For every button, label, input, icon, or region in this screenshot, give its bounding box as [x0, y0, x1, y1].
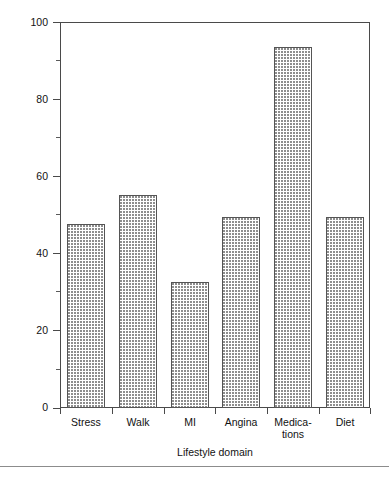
bar-mi[interactable]: [171, 282, 209, 408]
x-tick-label-diet-line1: Diet: [336, 416, 355, 428]
x-tick-label-medications: Medica- tions: [265, 416, 321, 440]
x-tick-label-angina-line1: Angina: [225, 416, 258, 428]
x-tick-label-medications-line1: Medica-: [274, 416, 311, 428]
y-tick-mark-20: [53, 330, 60, 331]
y-tick-label-40: 40: [8, 248, 48, 259]
y-tick-label-0: 0: [8, 402, 48, 413]
x-tick-label-mi-line1: MI: [184, 416, 196, 428]
bar-diet[interactable]: [326, 217, 364, 408]
bar-angina[interactable]: [222, 217, 260, 408]
y-tick-mark-0: [53, 408, 60, 409]
y-tick-mark-40: [53, 253, 60, 254]
page-divider: [0, 466, 389, 467]
y-tick-mark-100: [53, 22, 60, 23]
x-tick-label-mi: MI: [164, 416, 216, 428]
y-tick-label-60: 60: [8, 171, 48, 182]
x-tick-mark-0: [60, 408, 61, 414]
x-tick-mark-3: [215, 408, 216, 414]
x-tick-mark-2: [164, 408, 165, 414]
x-tick-label-stress: Stress: [60, 416, 112, 428]
x-tick-mark-1: [112, 408, 113, 414]
bar-chart-figure: Level of confidence (percent) 100 80 60 …: [0, 0, 389, 478]
x-tick-label-medications-line2: tions: [265, 428, 321, 440]
y-tick-mark-60: [53, 176, 60, 177]
y-tick-mark-80: [53, 99, 60, 100]
plot-area: [60, 22, 370, 408]
y-tick-label-20: 20: [8, 325, 48, 336]
bar-stress[interactable]: [67, 224, 105, 408]
y-tick-label-100: 100: [8, 17, 48, 28]
x-tick-mark-4: [267, 408, 268, 414]
x-tick-label-walk: Walk: [112, 416, 164, 428]
bar-walk[interactable]: [119, 195, 157, 408]
bar-medications[interactable]: [274, 47, 312, 408]
x-axis-title: Lifestyle domain: [60, 446, 370, 458]
x-tick-mark-5: [319, 408, 320, 414]
x-tick-label-angina: Angina: [215, 416, 267, 428]
x-tick-label-walk-line1: Walk: [127, 416, 150, 428]
y-tick-label-80: 80: [8, 94, 48, 105]
x-tick-label-stress-line1: Stress: [71, 416, 101, 428]
x-tick-label-diet: Diet: [319, 416, 371, 428]
x-tick-mark-6: [370, 408, 371, 414]
